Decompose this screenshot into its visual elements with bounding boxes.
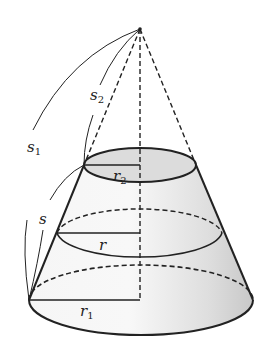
arc-s1-lower <box>25 220 29 300</box>
label-s1: s1 <box>27 138 41 157</box>
apex-dashed-right <box>140 29 196 165</box>
label-s2: s2 <box>90 86 104 105</box>
frustum-body <box>29 165 253 335</box>
apex-point <box>138 27 142 31</box>
arc-s1-upper <box>33 29 140 130</box>
label-s: s <box>39 210 47 228</box>
frustum-diagram: s1 s2 s r2 r r1 <box>0 0 268 361</box>
label-r: r <box>99 236 107 254</box>
